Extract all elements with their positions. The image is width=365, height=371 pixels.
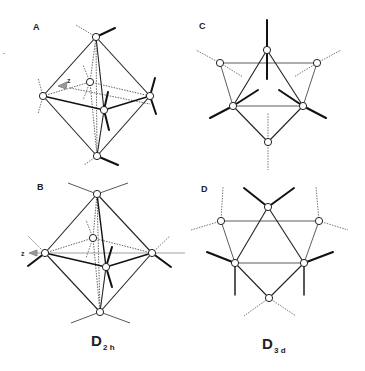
atom: [102, 263, 109, 270]
atom: [96, 308, 103, 315]
atom: [89, 234, 96, 241]
atom: [93, 152, 100, 159]
atom: [265, 294, 272, 301]
z-axis-label-b: z: [21, 250, 25, 257]
panel-a-label: A: [33, 22, 40, 32]
atom: [93, 190, 100, 197]
atom: [263, 46, 270, 53]
symmetry-label-d2h: D 2 h: [91, 332, 115, 352]
atom: [264, 203, 271, 210]
panel-b-label: B: [37, 182, 44, 192]
atom: [100, 106, 107, 113]
panel-b: B z: [21, 182, 185, 323]
atom: [217, 217, 224, 224]
panel-d: D: [191, 184, 348, 316]
z-axis-arrow-icon: [58, 82, 67, 89]
panel-c-label: C: [199, 21, 206, 31]
symmetry-sub: 2 h: [103, 343, 115, 352]
atom: [299, 102, 306, 109]
atom: [146, 92, 153, 99]
atom: [300, 259, 307, 266]
symmetry-main: D: [262, 335, 273, 352]
stray-mark: ·: [3, 50, 5, 56]
z-axis-label-a: z: [67, 77, 71, 84]
symmetry-label-d3d: D 3 d: [262, 335, 286, 355]
atom: [39, 92, 46, 99]
atom: [92, 33, 99, 40]
octahedra-figure: · A z: [0, 0, 365, 371]
atom: [313, 59, 320, 66]
atom: [229, 102, 236, 109]
atom: [86, 78, 93, 85]
atom: [264, 138, 271, 145]
atom: [231, 259, 238, 266]
symmetry-sub: 3 d: [274, 346, 286, 355]
atom: [315, 217, 322, 224]
panel-d-label: D: [201, 184, 208, 194]
symmetry-main: D: [91, 332, 102, 349]
atom: [216, 59, 223, 66]
panel-c: C: [196, 20, 341, 170]
atom: [148, 249, 155, 256]
panel-a: A z: [33, 22, 156, 165]
z-axis-arrow-icon: [29, 250, 37, 256]
atom: [41, 249, 48, 256]
